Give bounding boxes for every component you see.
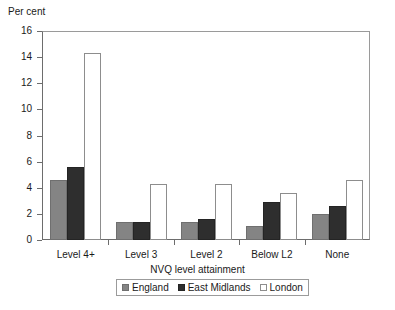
bar-london-below-l2	[280, 193, 297, 240]
bar-london-level-2	[215, 184, 232, 240]
bar-east-midlands-none	[329, 206, 346, 240]
y-tick-mark	[37, 83, 42, 84]
x-tick-label: Level 2	[174, 249, 239, 260]
y-tick-label: 2	[6, 209, 32, 219]
bar-london-level-4	[84, 53, 101, 240]
bar-group	[305, 31, 370, 240]
bar-england-none	[312, 214, 329, 240]
legend-item-london: London	[260, 282, 303, 293]
bar-east-midlands-level-4	[67, 167, 84, 240]
legend-item-england: England	[122, 282, 169, 293]
bar-group	[43, 31, 108, 240]
y-axis-title: Per cent	[8, 6, 45, 18]
y-tick-mark	[37, 57, 42, 58]
bar-group	[174, 31, 239, 240]
y-tick-label: 6	[6, 157, 32, 167]
legend-item-label: East Midlands	[188, 282, 251, 293]
bar-england-level-2	[181, 222, 198, 240]
y-tick-mark	[37, 188, 42, 189]
bars-layer	[43, 31, 370, 240]
y-tick-label: 0	[6, 235, 32, 245]
y-tick-mark	[37, 109, 42, 110]
x-tick-label: Below L2	[239, 249, 304, 260]
x-tick-label: Level 3	[108, 249, 173, 260]
y-tick-mark	[37, 240, 42, 241]
bar-london-none	[346, 180, 363, 240]
y-tick-label: 10	[6, 104, 32, 114]
bar-england-below-l2	[246, 226, 263, 240]
chart-legend: EnglandEast MidlandsLondon	[116, 279, 309, 296]
bar-east-midlands-level-2	[198, 219, 215, 240]
y-tick-label: 8	[6, 131, 32, 141]
legend-item-label: England	[132, 282, 169, 293]
y-tick-mark	[37, 31, 42, 32]
y-tick-label: 4	[6, 183, 32, 193]
y-tick-mark	[37, 214, 42, 215]
east-midlands-swatch	[178, 284, 185, 291]
x-tick-label: None	[305, 249, 370, 260]
legend-item-label: London	[270, 282, 303, 293]
bar-group	[108, 31, 173, 240]
bar-group	[239, 31, 304, 240]
london-swatch	[260, 284, 267, 291]
bar-london-level-3	[150, 184, 167, 240]
bar-chart: Per cent 0246810121416 Level 4+Level 3Le…	[0, 0, 395, 310]
y-tick-label: 16	[6, 26, 32, 36]
x-axis-title: NVQ level attainment	[0, 264, 395, 275]
england-swatch	[122, 284, 129, 291]
y-tick-mark	[37, 136, 42, 137]
legend-item-east-midlands: East Midlands	[178, 282, 251, 293]
y-tick-mark	[37, 162, 42, 163]
x-tick-mark	[239, 240, 240, 245]
x-tick-mark	[174, 240, 175, 245]
x-tick-mark	[305, 240, 306, 245]
bar-east-midlands-level-3	[133, 222, 150, 240]
y-tick-label: 12	[6, 78, 32, 88]
bar-england-level-3	[116, 222, 133, 240]
y-tick-label: 14	[6, 52, 32, 62]
bar-east-midlands-below-l2	[263, 202, 280, 240]
x-tick-label: Level 4+	[43, 249, 108, 260]
x-tick-mark	[108, 240, 109, 245]
bar-england-level-4	[50, 180, 67, 240]
